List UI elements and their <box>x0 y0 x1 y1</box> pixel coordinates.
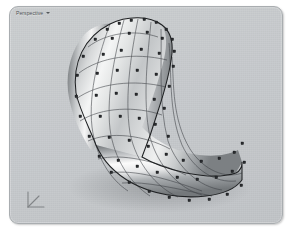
control-point[interactable] <box>208 198 211 201</box>
scene-3d[interactable] <box>10 7 282 223</box>
control-point[interactable] <box>155 21 158 24</box>
control-point[interactable] <box>168 85 171 88</box>
control-point[interactable] <box>143 18 146 21</box>
viewport-title-label: Perspective <box>16 10 43 16</box>
control-point[interactable] <box>106 28 109 31</box>
control-point[interactable] <box>163 107 166 110</box>
control-point[interactable] <box>82 55 85 58</box>
control-point[interactable] <box>176 176 179 179</box>
control-point[interactable] <box>111 37 114 40</box>
control-point[interactable] <box>136 165 139 168</box>
nurbs-surface-render[interactable] <box>10 7 282 223</box>
control-point[interactable] <box>96 72 99 75</box>
control-point[interactable] <box>226 193 229 196</box>
control-point[interactable] <box>119 115 122 118</box>
control-point[interactable] <box>94 38 97 41</box>
viewport-3d[interactable]: Perspective <box>9 6 283 224</box>
control-point[interactable] <box>182 159 185 162</box>
control-point[interactable] <box>130 19 133 22</box>
control-point[interactable] <box>156 171 159 174</box>
control-point[interactable] <box>154 123 157 126</box>
control-point[interactable] <box>146 31 149 34</box>
control-point[interactable] <box>215 176 218 179</box>
control-point[interactable] <box>98 155 101 158</box>
control-point[interactable] <box>76 74 79 77</box>
control-point[interactable] <box>165 153 168 156</box>
control-point[interactable] <box>116 69 119 72</box>
control-point[interactable] <box>165 28 168 31</box>
control-point[interactable] <box>173 50 176 53</box>
control-point[interactable] <box>117 159 120 162</box>
control-point[interactable] <box>135 93 138 96</box>
control-point[interactable] <box>102 53 105 56</box>
control-point[interactable] <box>241 142 244 145</box>
control-point[interactable] <box>148 190 151 193</box>
control-point[interactable] <box>240 184 243 187</box>
control-point[interactable] <box>153 98 156 101</box>
control-point[interactable] <box>196 178 199 181</box>
axis-gizmo-icon <box>24 187 50 211</box>
control-point[interactable] <box>120 49 123 52</box>
control-point[interactable] <box>140 48 143 51</box>
control-point[interactable] <box>233 151 236 154</box>
control-point[interactable] <box>188 199 191 202</box>
control-point[interactable] <box>136 69 139 72</box>
control-point[interactable] <box>79 115 82 118</box>
control-point[interactable] <box>158 52 161 55</box>
control-point[interactable] <box>168 196 171 199</box>
control-point[interactable] <box>161 37 164 40</box>
chevron-down-icon[interactable] <box>46 12 50 14</box>
control-point[interactable] <box>231 170 234 173</box>
control-point[interactable] <box>95 94 98 97</box>
control-point[interactable] <box>128 181 131 184</box>
control-point[interactable] <box>128 139 131 142</box>
control-point[interactable] <box>115 92 118 95</box>
control-point[interactable] <box>167 135 170 138</box>
control-point[interactable] <box>88 135 91 138</box>
control-point[interactable] <box>147 145 150 148</box>
control-point[interactable] <box>155 73 158 76</box>
control-point[interactable] <box>200 160 203 163</box>
control-point[interactable] <box>128 32 131 35</box>
control-point[interactable] <box>75 95 78 98</box>
control-point[interactable] <box>218 157 221 160</box>
control-point[interactable] <box>172 65 175 68</box>
control-point[interactable] <box>138 117 141 120</box>
control-point[interactable] <box>110 171 113 174</box>
viewport-title[interactable]: Perspective <box>16 10 50 16</box>
application-window: Perspective <box>0 0 294 234</box>
control-point[interactable] <box>99 115 102 118</box>
control-point[interactable] <box>118 22 121 25</box>
control-point[interactable] <box>108 136 111 139</box>
control-point[interactable] <box>171 38 174 41</box>
control-point[interactable] <box>243 161 246 164</box>
